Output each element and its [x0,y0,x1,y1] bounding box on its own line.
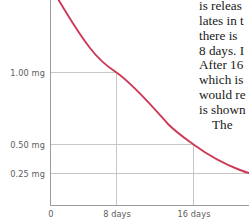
body-text-line: is shown [199,103,249,118]
y-tick-labels: 1.00 mg 0.50 mg 0.25 mg [10,68,45,179]
x-tick-label-1: 0 [48,209,53,219]
body-text-line: which is [199,73,249,88]
y-tick-label-3: 0.25 mg [10,169,45,179]
body-text-line: is releas [199,0,249,14]
body-text-line: 8 days. I [199,44,249,59]
body-text-line: lates in t [199,14,249,29]
y-tick-label-1: 1.00 mg [10,68,45,78]
body-text-column: is releas lates in t there is 8 days. I … [199,0,249,221]
body-text-line: there is [199,29,249,44]
x-tick-label-2: 8 days [103,209,131,219]
y-tick-label-2: 0.50 mg [10,140,45,150]
x-tick-labels: 0 8 days 16 days [48,209,210,219]
figure-container: 1.00 mg 0.50 mg 0.25 mg 0 8 days 16 days… [0,0,249,221]
body-text-line: would re [199,88,249,103]
body-text-line: After 16 [199,58,249,73]
body-text-line: The [199,118,249,133]
